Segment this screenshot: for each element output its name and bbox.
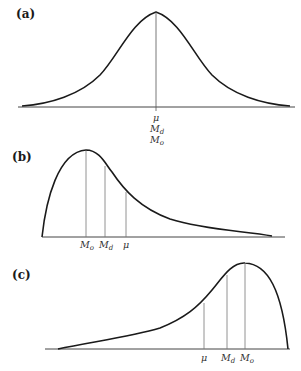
panel-b-curve	[42, 150, 272, 237]
distribution-diagram: μ Md Mo Mo Md μ μ Md Mo	[0, 0, 301, 371]
panel-a-mean-label: μ	[153, 112, 159, 123]
panel-b: Mo Md μ	[42, 150, 285, 252]
panel-c-median-label: Md	[220, 352, 236, 365]
panel-b-mean-label: μ	[123, 239, 129, 250]
panel-c-mode-label: Mo	[239, 352, 254, 365]
panel-a: μ Md Mo	[18, 12, 295, 147]
panel-c-curve	[58, 263, 288, 349]
panel-c: μ Md Mo	[45, 263, 290, 365]
panel-c-mean-label: μ	[201, 352, 207, 363]
panel-b-median-label: Md	[98, 239, 114, 252]
panel-b-mode-label: Mo	[79, 239, 94, 252]
